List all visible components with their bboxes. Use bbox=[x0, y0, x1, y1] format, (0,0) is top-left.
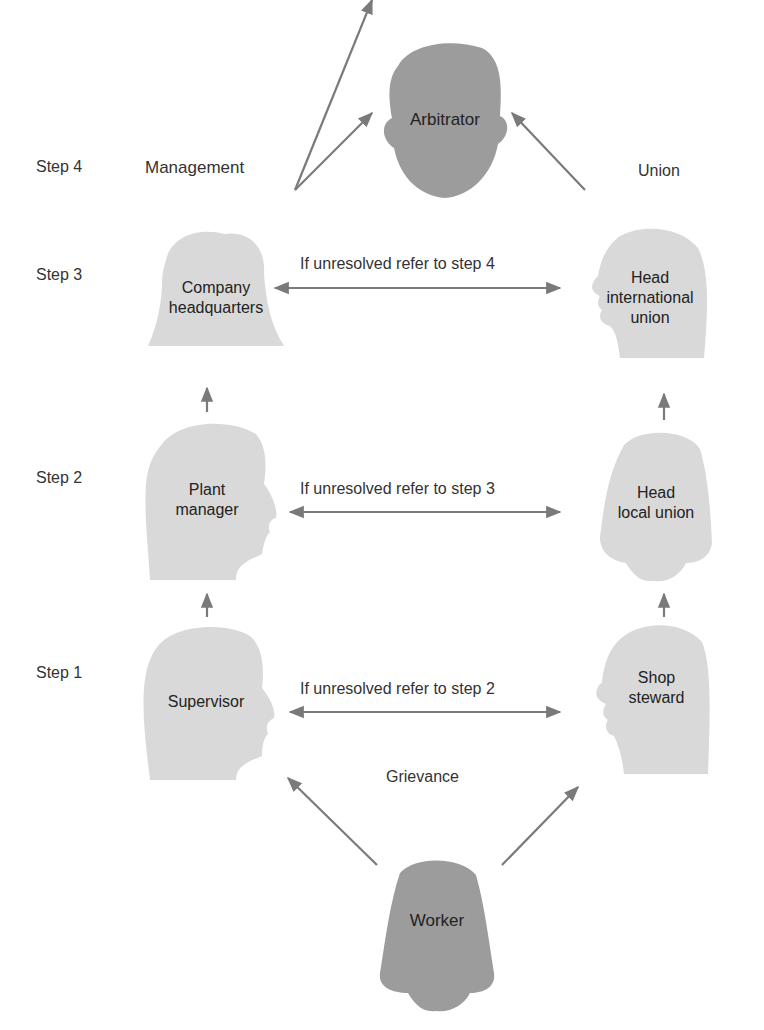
head-intl-line3: union bbox=[590, 308, 710, 328]
node-arbitrator: Arbitrator bbox=[370, 36, 520, 201]
node-plant-manager: Plant manager bbox=[140, 414, 280, 584]
node-head-international-union: Head international union bbox=[580, 220, 710, 360]
step3-connector-label: If unresolved refer to step 4 bbox=[300, 255, 495, 273]
head-local-line1: Head bbox=[596, 483, 716, 503]
node-head-local-union: Head local union bbox=[596, 425, 716, 585]
supervisor-label: Supervisor bbox=[132, 692, 280, 712]
arrow-worker-to-steward bbox=[502, 787, 578, 865]
step-2-label: Step 2 bbox=[36, 469, 82, 487]
plant-manager-line1: Plant bbox=[134, 480, 280, 500]
node-shop-steward: Shop steward bbox=[588, 616, 713, 776]
company-hq-line1: Company bbox=[146, 278, 286, 298]
plant-manager-line2: manager bbox=[134, 500, 280, 520]
worker-label: Worker bbox=[372, 911, 502, 931]
step-3-label: Step 3 bbox=[36, 266, 82, 284]
node-worker: Worker bbox=[372, 855, 502, 1015]
shop-steward-line2: steward bbox=[600, 688, 713, 708]
step2-connector-label: If unresolved refer to step 3 bbox=[300, 480, 495, 498]
step1-connector-label: If unresolved refer to step 2 bbox=[300, 680, 495, 698]
head-front-icon bbox=[372, 855, 502, 1015]
arrow-union-to-arbitrator bbox=[512, 113, 585, 190]
company-hq-line2: headquarters bbox=[146, 298, 286, 318]
step-4-label: Step 4 bbox=[36, 158, 82, 176]
shop-steward-line1: Shop bbox=[600, 668, 713, 688]
head-intl-line2: international bbox=[590, 288, 710, 308]
union-heading: Union bbox=[638, 162, 680, 180]
arbitrator-label: Arbitrator bbox=[370, 110, 520, 130]
arrow-worker-to-supervisor bbox=[288, 778, 377, 865]
node-supervisor: Supervisor bbox=[140, 618, 280, 783]
grievance-label: Grievance bbox=[386, 768, 459, 786]
management-heading: Management bbox=[145, 158, 244, 178]
head-intl-line1: Head bbox=[590, 268, 710, 288]
arrow-mgmt-to-arbitrator bbox=[295, 0, 372, 190]
head-local-line2: local union bbox=[596, 503, 716, 523]
node-company-headquarters: Company headquarters bbox=[146, 220, 286, 350]
step-1-label: Step 1 bbox=[36, 664, 82, 682]
